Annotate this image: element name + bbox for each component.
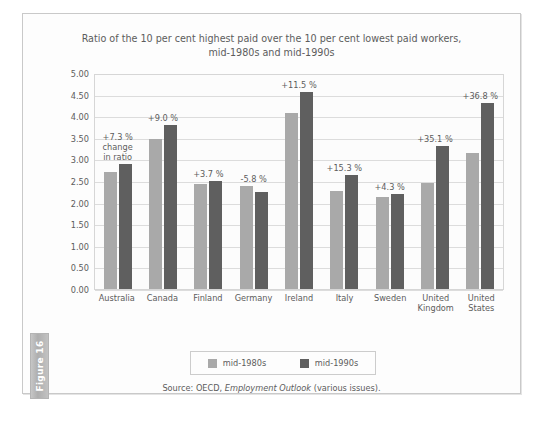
plot-area: +7.3 %changein ratio+9.0 %+3.7 %-5.8 %+1… bbox=[94, 74, 504, 290]
x-axis-label-line: Canada bbox=[140, 293, 186, 303]
x-axis-label-line: Sweden bbox=[367, 293, 413, 303]
bar-mid-1990s bbox=[345, 175, 358, 289]
source-suffix: (various issues). bbox=[311, 383, 380, 393]
annotation-value: +35.1 % bbox=[417, 134, 452, 144]
bar-annotation: -5.8 % bbox=[240, 174, 266, 184]
bar-mid-1980s bbox=[376, 197, 389, 289]
x-axis-label: Ireland bbox=[276, 293, 322, 313]
x-axis-label: Germany bbox=[231, 293, 277, 313]
bar-annotation: +11.5 % bbox=[281, 80, 316, 90]
legend-item[interactable]: mid-1980s bbox=[208, 358, 267, 368]
bar-groups: +7.3 %changein ratio+9.0 %+3.7 %-5.8 %+1… bbox=[95, 74, 503, 289]
bar-mid-1990s bbox=[164, 125, 177, 289]
figure-number-tab: Figure 16 bbox=[30, 333, 49, 399]
x-axis-label: Finland bbox=[185, 293, 231, 313]
x-axis-label-line: Ireland bbox=[276, 293, 322, 303]
annotation-value: +36.8 % bbox=[463, 91, 498, 101]
bar-group: +11.5 % bbox=[276, 74, 321, 289]
bar-annotation: +35.1 % bbox=[417, 134, 452, 144]
legend-label: mid-1990s bbox=[315, 358, 359, 368]
gridline bbox=[95, 290, 503, 291]
y-axis-tick: 3.00 bbox=[71, 155, 89, 165]
x-axis-label: Canada bbox=[140, 293, 186, 313]
bar-mid-1980s bbox=[330, 191, 343, 289]
chart-title-line-1: Ratio of the 10 per cent highest paid ov… bbox=[23, 32, 520, 46]
bar-mid-1980s bbox=[285, 113, 298, 289]
x-axis-label: Sweden bbox=[367, 293, 413, 313]
y-axis-tick: 4.00 bbox=[71, 112, 89, 122]
bar-group: +35.1 % bbox=[412, 74, 457, 289]
source-publication: Employment Outlook bbox=[225, 383, 311, 393]
bar-mid-1990s bbox=[300, 92, 313, 289]
bar-group: +4.3 % bbox=[367, 74, 412, 289]
x-axis-label: Australia bbox=[94, 293, 140, 313]
bar-mid-1990s bbox=[119, 164, 132, 289]
figure-number-label: Figure 16 bbox=[35, 341, 45, 392]
x-axis: AustraliaCanadaFinlandGermanyIrelandItal… bbox=[94, 293, 504, 313]
annotation-value: +4.3 % bbox=[374, 182, 404, 192]
y-axis-tick: 1.00 bbox=[71, 242, 89, 252]
x-axis-label: UnitedStates bbox=[459, 293, 505, 313]
bar-mid-1980s bbox=[240, 186, 253, 289]
annotation-note: change bbox=[103, 142, 133, 152]
figure-frame: Ratio of the 10 per cent highest paid ov… bbox=[22, 13, 521, 394]
bar-group: +9.0 % bbox=[140, 74, 185, 289]
x-axis-label: Italy bbox=[322, 293, 368, 313]
legend-swatch-icon bbox=[300, 359, 309, 368]
y-axis-tick: 0.50 bbox=[71, 263, 89, 273]
y-axis: 5.004.504.003.503.002.502.001.501.000.50… bbox=[64, 74, 92, 290]
annotation-value: +7.3 % bbox=[103, 132, 133, 142]
plot-wrapper: 5.004.504.003.503.002.502.001.501.000.50… bbox=[64, 74, 504, 306]
y-axis-tick: 2.00 bbox=[71, 199, 89, 209]
x-axis-label-line: United bbox=[413, 293, 459, 303]
bar-annotation: +36.8 % bbox=[463, 91, 498, 101]
annotation-value: +11.5 % bbox=[281, 80, 316, 90]
annotation-value: +9.0 % bbox=[148, 113, 178, 123]
bar-mid-1980s bbox=[194, 184, 207, 289]
legend-item[interactable]: mid-1990s bbox=[300, 358, 359, 368]
legend-swatch-icon bbox=[208, 359, 217, 368]
bar-mid-1990s bbox=[391, 194, 404, 289]
bar-annotation: +15.3 % bbox=[327, 163, 362, 173]
bar-mid-1980s bbox=[104, 172, 117, 289]
x-axis-label-line: Kingdom bbox=[413, 303, 459, 313]
annotation-value: +15.3 % bbox=[327, 163, 362, 173]
bar-mid-1990s bbox=[255, 192, 268, 289]
x-axis-label: UnitedKingdom bbox=[413, 293, 459, 313]
source-prefix: Source: OECD, bbox=[162, 383, 224, 393]
y-axis-tick: 1.50 bbox=[71, 220, 89, 230]
bar-annotation: +7.3 %changein ratio bbox=[103, 132, 133, 162]
bar-group: +15.3 % bbox=[322, 74, 367, 289]
annotation-note: in ratio bbox=[103, 152, 133, 162]
y-axis-tick: 4.50 bbox=[71, 91, 89, 101]
annotation-value: +3.7 % bbox=[193, 169, 223, 179]
bar-group: +36.8 % bbox=[458, 74, 503, 289]
x-axis-label-line: Australia bbox=[94, 293, 140, 303]
x-axis-label-line: States bbox=[459, 303, 505, 313]
source-note: Source: OECD, Employment Outlook (variou… bbox=[23, 383, 520, 393]
x-axis-label-line: Italy bbox=[322, 293, 368, 303]
y-axis-tick: 3.50 bbox=[71, 134, 89, 144]
x-axis-label-line: United bbox=[459, 293, 505, 303]
bar-group: -5.8 % bbox=[231, 74, 276, 289]
bar-annotation: +4.3 % bbox=[374, 182, 404, 192]
y-axis-tick: 0.00 bbox=[71, 285, 89, 295]
bar-group: +3.7 % bbox=[186, 74, 231, 289]
bar-annotation: +9.0 % bbox=[148, 113, 178, 123]
bar-mid-1980s bbox=[421, 183, 434, 289]
chart-title: Ratio of the 10 per cent highest paid ov… bbox=[23, 32, 520, 60]
bar-annotation: +3.7 % bbox=[193, 169, 223, 179]
chart-title-line-2: mid-1980s and mid-1990s bbox=[23, 46, 520, 60]
legend-label: mid-1980s bbox=[223, 358, 267, 368]
bar-mid-1990s bbox=[481, 103, 494, 289]
x-axis-label-line: Finland bbox=[185, 293, 231, 303]
y-axis-tick: 5.00 bbox=[71, 69, 89, 79]
bar-mid-1980s bbox=[149, 139, 162, 289]
bar-mid-1980s bbox=[466, 153, 479, 289]
bar-mid-1990s bbox=[436, 146, 449, 289]
legend: mid-1980smid-1990s bbox=[190, 351, 376, 375]
x-axis-label-line: Germany bbox=[231, 293, 277, 303]
bar-mid-1990s bbox=[209, 181, 222, 289]
annotation-value: -5.8 % bbox=[240, 174, 266, 184]
y-axis-tick: 2.50 bbox=[71, 177, 89, 187]
